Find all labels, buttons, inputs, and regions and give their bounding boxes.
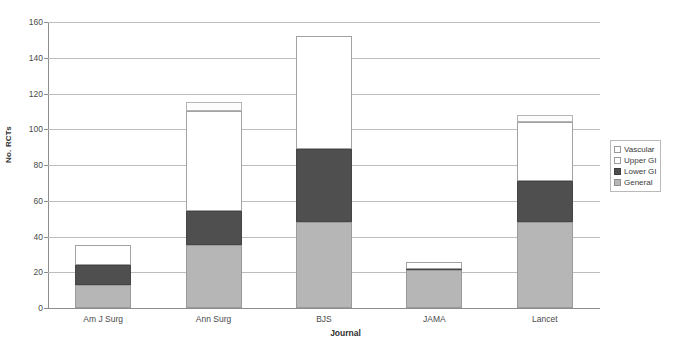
x-tick-label: Am J Surg: [83, 314, 123, 324]
bar-jama[interactable]: [406, 262, 462, 308]
upper-gi-swatch-icon: [614, 157, 621, 164]
bar-segment-upper-gi[interactable]: [517, 122, 573, 181]
y-axis-tick-marks: [0, 22, 48, 308]
bar-segment-lower-gi[interactable]: [186, 211, 242, 245]
bar-am-j-surg[interactable]: [75, 245, 131, 308]
bar-segment-general[interactable]: [75, 285, 131, 308]
bar-segment-lower-gi[interactable]: [296, 149, 352, 222]
gridline: [48, 308, 600, 309]
bar-segment-general[interactable]: [406, 270, 462, 308]
general-swatch-icon: [614, 179, 621, 186]
legend-item-label: Vascular: [624, 145, 655, 154]
bar-segment-lower-gi[interactable]: [406, 268, 462, 270]
bar-segment-upper-gi[interactable]: [186, 111, 242, 211]
x-axis-title: Journal: [0, 328, 691, 338]
x-tick-label: Ann Surg: [196, 314, 231, 324]
legend-item-label: Upper GI: [624, 156, 656, 165]
x-tick-label: Lancet: [532, 314, 558, 324]
x-tick-label: JAMA: [423, 314, 446, 324]
bar-segment-lower-gi[interactable]: [517, 181, 573, 222]
legend-item[interactable]: Lower GI: [614, 166, 656, 177]
legend-item-label: General: [624, 178, 652, 187]
legend-item-label: Lower GI: [624, 167, 656, 176]
legend-item[interactable]: General: [614, 177, 656, 188]
x-tick-label: BJS: [316, 314, 332, 324]
bar-segment-general[interactable]: [186, 245, 242, 308]
vascular-swatch-icon: [614, 146, 621, 153]
plot-area: [48, 22, 600, 308]
bar-lancet[interactable]: [517, 115, 573, 308]
lower-gi-swatch-icon: [614, 168, 621, 175]
bar-segment-vascular[interactable]: [517, 115, 573, 122]
legend-item[interactable]: Upper GI: [614, 155, 656, 166]
bar-ann-surg[interactable]: [186, 102, 242, 308]
bar-segment-general[interactable]: [517, 222, 573, 308]
legend: VascularUpper GILower GIGeneral: [610, 140, 661, 192]
bar-segment-lower-gi[interactable]: [75, 265, 131, 285]
legend-item[interactable]: Vascular: [614, 144, 656, 155]
stacked-bar-chart-figure: No. RCTs 020406080100120140160 Am J Surg…: [0, 0, 691, 353]
bar-segment-upper-gi[interactable]: [296, 36, 352, 149]
bar-segment-vascular[interactable]: [186, 102, 242, 111]
gridline: [48, 22, 600, 23]
bar-segment-upper-gi[interactable]: [75, 245, 131, 265]
bar-bjs[interactable]: [296, 36, 352, 308]
bar-segment-general[interactable]: [296, 222, 352, 308]
bar-segment-upper-gi[interactable]: [406, 262, 462, 269]
